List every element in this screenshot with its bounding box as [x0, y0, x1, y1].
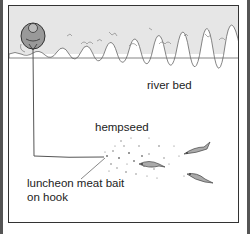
fish-icon [184, 142, 210, 154]
hempseed-scatter [104, 137, 184, 178]
outer-border-right [247, 0, 250, 234]
river-bed-label: river bed [147, 79, 192, 92]
outer-border-left [0, 0, 3, 234]
diagram-frame: river bed hempseed luncheon meat bait on… [8, 5, 239, 223]
hempseed-label: hempseed [95, 121, 149, 134]
fish-icon [187, 173, 213, 183]
bait-label-line2: on hook [27, 191, 68, 204]
angler-icon [21, 23, 46, 52]
fishing-line [33, 50, 104, 157]
fish-icon [139, 162, 165, 168]
bait-pointer [81, 158, 105, 179]
bait-label-line1: luncheon meat bait [27, 177, 124, 190]
